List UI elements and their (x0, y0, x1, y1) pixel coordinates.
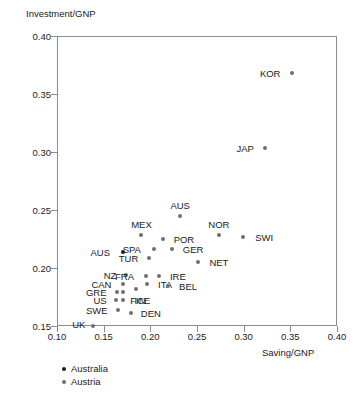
legend-marker-gray-dot-icon (62, 380, 66, 384)
x-tick-label: 0.10 (48, 331, 67, 342)
data-point-swe (116, 308, 120, 312)
data-point-label-net: NET (209, 257, 228, 268)
data-point-gre (115, 290, 119, 294)
data-point-aus (178, 214, 182, 218)
x-tick-label: 0.15 (94, 331, 113, 342)
data-point-ita (145, 282, 149, 286)
data-point-label-swe: SWE (86, 304, 108, 315)
x-tick-label: 0.40 (328, 331, 347, 342)
x-tick-mark (337, 326, 338, 332)
data-point-mex (139, 233, 143, 237)
y-tick-label: 0.20 (33, 263, 52, 274)
legend-label-australia: Australia (71, 363, 108, 374)
x-tick-label: 0.30 (234, 331, 253, 342)
data-point-label-ice: ICE (135, 295, 151, 306)
y-tick-mark (51, 268, 57, 269)
chart-legend: Australia Austria (62, 362, 108, 388)
y-tick-mark (51, 152, 57, 153)
data-point-net (196, 260, 200, 264)
x-tick-mark (197, 326, 198, 332)
legend-marker-black-dot-icon (62, 367, 66, 371)
data-point-label-bel: BEL (179, 280, 197, 291)
data-point-label-fra: FRA (115, 271, 134, 282)
data-point-spa (152, 247, 156, 251)
data-point-label-aus: AUS (90, 247, 110, 258)
data-point-label-aus: AUS (170, 200, 190, 211)
data-point-label-den: DEN (141, 308, 161, 319)
data-point-fin (134, 287, 138, 291)
y-tick-mark (51, 94, 57, 95)
data-point-swi (241, 235, 245, 239)
data-point-fra (144, 274, 148, 278)
y-tick-label: 0.25 (33, 205, 52, 216)
data-point-tur (147, 256, 151, 260)
data-point-label-swi: SWI (255, 232, 273, 243)
legend-label-austria: Austria (71, 376, 101, 387)
data-point-por (161, 237, 165, 241)
data-point-label-mex: MEX (131, 218, 152, 229)
x-tick-mark (290, 326, 291, 332)
x-tick-label: 0.25 (188, 331, 207, 342)
data-point-den (129, 311, 133, 315)
data-point-label-ita: ITA (158, 279, 172, 290)
data-point-bel (166, 284, 170, 288)
data-point-ice (121, 298, 125, 302)
x-tick-label: 0.35 (281, 331, 300, 342)
y-tick-label: 0.30 (33, 147, 52, 158)
y-tick-label: 0.40 (33, 31, 52, 42)
x-tick-mark (244, 326, 245, 332)
data-point-gre2 (121, 290, 125, 294)
x-tick-mark (57, 326, 58, 332)
data-point-label-ger: GER (183, 244, 204, 255)
data-point-uk (91, 324, 95, 328)
data-point-ire (157, 274, 161, 278)
data-point-us (114, 298, 118, 302)
y-axis-title: Investment/GNP (26, 8, 96, 19)
y-tick-label: 0.35 (33, 89, 52, 100)
data-point-can (121, 282, 125, 286)
scatter-chart-figure: Investment/GNP 0.150.200.250.300.350.400… (0, 0, 362, 406)
data-point-label-uk: UK (72, 319, 85, 330)
legend-item-austria: Austria (62, 375, 108, 388)
x-axis-title: Saving/GNP (262, 347, 314, 358)
data-point-label-jap: JAP (236, 142, 253, 153)
data-point-jap (263, 146, 267, 150)
data-point-label-nor: NOR (208, 218, 229, 229)
x-tick-mark (150, 326, 151, 332)
x-tick-label: 0.20 (141, 331, 160, 342)
y-tick-mark (51, 210, 57, 211)
data-point-ger (170, 247, 174, 251)
data-point-kor (290, 71, 294, 75)
data-point-label-tur: TUR (119, 253, 139, 264)
y-tick-label: 0.15 (33, 321, 52, 332)
data-point-label-kor: KOR (260, 67, 281, 78)
legend-item-australia: Australia (62, 362, 108, 375)
x-tick-mark (104, 326, 105, 332)
data-point-nor (217, 233, 221, 237)
y-tick-mark (51, 36, 57, 37)
